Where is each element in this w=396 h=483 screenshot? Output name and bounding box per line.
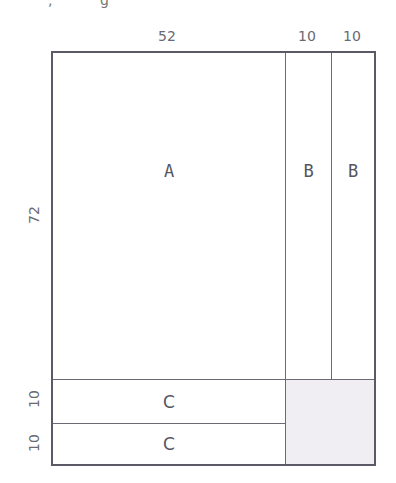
dimension-label-top-a: 52 xyxy=(158,28,176,44)
region-label-b1: B xyxy=(303,161,313,181)
region-label-c1: C xyxy=(163,392,175,412)
region-label-a: A xyxy=(164,161,174,181)
dimension-label-left-a: 72 xyxy=(26,206,42,224)
clipped-text-fragment: g xyxy=(100,0,109,8)
region-label-c2: C xyxy=(163,434,175,454)
region-a: A xyxy=(53,53,285,289)
region-c2: C xyxy=(53,424,285,464)
dimension-label-top-b2: 10 xyxy=(343,28,361,44)
region-b1: B xyxy=(286,53,331,289)
waste-region xyxy=(286,380,374,464)
region-c1: C xyxy=(53,380,285,423)
region-b2: B xyxy=(332,53,374,289)
clipped-text-fragment: , xyxy=(48,0,52,8)
dimension-label-left-c2: 10 xyxy=(26,434,42,452)
region-label-b2: B xyxy=(348,161,358,181)
dimension-label-top-b1: 10 xyxy=(298,28,316,44)
dimension-label-left-c1: 10 xyxy=(26,390,42,408)
cutting-layout-sheet: A B B C C xyxy=(51,51,376,466)
